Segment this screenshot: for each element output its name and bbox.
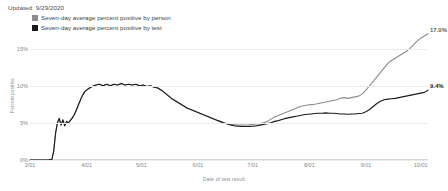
series-line: [30, 34, 428, 160]
legend-item-person: Seven-day average percent positive by pe…: [32, 13, 171, 22]
x-tick-label: 3/01: [25, 162, 36, 168]
data-label-test: 9.4%: [430, 83, 444, 89]
chart-root: Updated: 9/29/2020 Seven-day average per…: [0, 0, 448, 191]
legend-swatch-person: [32, 15, 38, 21]
x-tick-label: 9/01: [360, 162, 371, 168]
x-tick-label: 6/01: [193, 162, 204, 168]
x-tick-label: 10/01: [414, 162, 428, 168]
x-tick-label: 7/01: [247, 162, 258, 168]
data-label-person: 17.0%: [430, 27, 447, 33]
x-tick-label: 5/01: [136, 162, 147, 168]
y-tick-label: 5%: [2, 120, 28, 126]
gridline: [30, 160, 428, 161]
gridline: [30, 49, 428, 50]
x-tick-label: 8/01: [304, 162, 315, 168]
y-tick-label: 10%: [2, 83, 28, 89]
gridline: [30, 86, 428, 87]
series-line: [30, 83, 428, 160]
x-tick-label: 4/01: [81, 162, 92, 168]
x-axis-label: Date of test result: [0, 176, 448, 182]
x-axis-ticks: 3/014/015/016/017/018/019/0110/01: [30, 162, 428, 174]
gridline: [30, 123, 428, 124]
legend-label-person: Seven-day average percent positive by pe…: [41, 14, 171, 21]
plot-area: [30, 30, 428, 160]
y-tick-label: 15%: [2, 46, 28, 52]
